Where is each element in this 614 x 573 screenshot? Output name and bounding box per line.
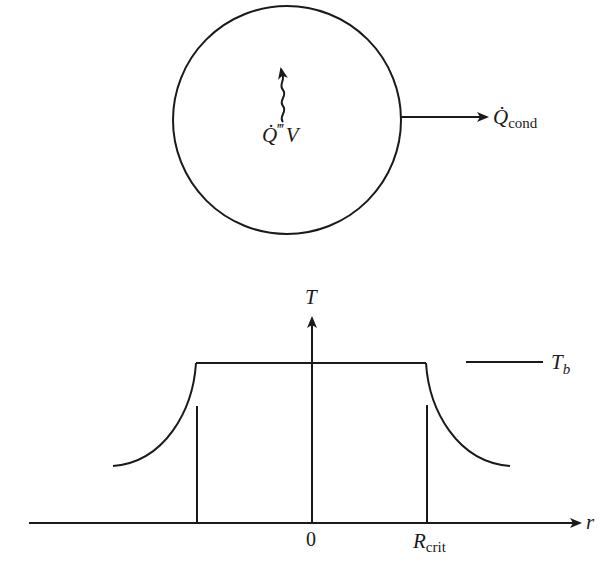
wavy-generation-arrow-icon <box>281 69 284 122</box>
heat-balance-diagram: Q̇‴V Q̇cond r T 0 Rcrit <box>0 0 614 573</box>
generation-label: Q̇‴V <box>262 121 301 147</box>
origin-label: 0 <box>306 528 316 550</box>
r-crit-label: Rcrit <box>412 529 447 555</box>
temperature-profile-panel: r T 0 Rcrit Tb <box>29 285 595 555</box>
sphere-outline <box>173 6 401 234</box>
tb-label: Tb <box>551 350 571 377</box>
conduction-label: Q̇cond <box>493 105 538 131</box>
r-axis-label: r <box>586 510 595 534</box>
left-decay-curve <box>113 363 196 466</box>
right-decay-curve <box>426 363 510 466</box>
t-axis-label: T <box>305 285 318 309</box>
sphere-panel: Q̇‴V Q̇cond <box>173 6 538 234</box>
